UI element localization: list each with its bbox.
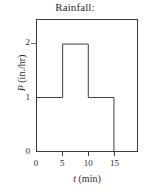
- step-line: [37, 44, 114, 151]
- x-tick-label-15: 15: [104, 157, 124, 170]
- x-axis-tick-labels: 0 5 10 15: [0, 157, 150, 170]
- x-tick-label-5: 5: [52, 157, 72, 170]
- x-tick-5: [62, 152, 63, 156]
- y-axis-symbol: P: [16, 85, 27, 91]
- y-axis-label-wrapper: P (in./hr): [15, 23, 29, 123]
- x-tick-15: [114, 152, 115, 156]
- rainfall-step-series: [37, 44, 114, 151]
- y-axis-units: (in./hr): [16, 55, 27, 83]
- x-axis-symbol: t: [73, 173, 76, 184]
- plot-area: [36, 19, 138, 152]
- x-axis-units: (min): [79, 173, 101, 184]
- x-axis-label: t (min): [36, 172, 138, 185]
- step-plot-svg: [37, 20, 137, 151]
- x-tick-label-0: 0: [26, 157, 46, 170]
- y-tick-label-0: 0: [26, 146, 31, 157]
- rainfall-step-chart-figure: Rainfall: 2 1 0 0 5 10 15 t (min) P (in.…: [0, 0, 150, 195]
- x-tick-10: [88, 152, 89, 156]
- y-axis-label: P (in./hr): [15, 23, 29, 123]
- chart-title: Rainfall:: [0, 1, 150, 14]
- x-tick-label-10: 10: [78, 157, 98, 170]
